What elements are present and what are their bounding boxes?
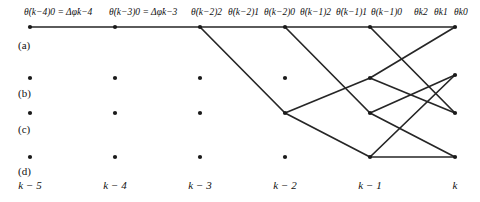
row-label-c: (c): [18, 124, 30, 135]
trellis-edge: [285, 113, 370, 157]
time-axis-tick-label: k: [430, 180, 480, 191]
trellis-node: [368, 111, 372, 115]
trellis-edge: [285, 78, 370, 113]
trellis-node: [283, 76, 287, 80]
trellis-node: [28, 76, 32, 80]
trellis-node: [198, 155, 202, 159]
state-metric-label: θk2: [414, 8, 428, 18]
time-axis-tick-label: k − 3: [175, 180, 225, 191]
state-metric-label: θ̇(k−4)0 = Δφ̇k−4: [24, 8, 92, 18]
time-axis-tick-label: k − 2: [260, 180, 310, 191]
state-metric-label: θ(k−1)0: [371, 8, 402, 18]
trellis-edge: [200, 27, 285, 113]
trellis-edges: [30, 27, 455, 157]
trellis-edge: [370, 75, 455, 157]
trellis-diagram: [0, 0, 480, 202]
trellis-node: [453, 111, 457, 115]
trellis-node: [28, 155, 32, 159]
trellis-edge: [370, 113, 455, 157]
trellis-nodes: [28, 25, 457, 159]
state-metric-label: θ̇(k−1)2: [300, 8, 331, 18]
trellis-node: [198, 76, 202, 80]
time-axis-tick-label: k − 1: [345, 180, 395, 191]
trellis-node: [28, 111, 32, 115]
trellis-edge: [285, 27, 370, 113]
row-label-d: (d): [18, 166, 31, 177]
state-metric-label: θ̇(k−1)1: [336, 8, 367, 18]
trellis-node: [283, 111, 287, 115]
trellis-node: [198, 111, 202, 115]
state-metric-label: θk1: [434, 8, 448, 18]
time-axis-tick-label: k − 5: [5, 180, 55, 191]
trellis-node: [453, 73, 457, 77]
trellis-node: [368, 76, 372, 80]
row-label-b: (b): [18, 88, 31, 99]
trellis-node: [283, 155, 287, 159]
trellis-node: [453, 155, 457, 159]
row-label-a: (a): [18, 40, 30, 51]
trellis-node: [368, 155, 372, 159]
trellis-node: [113, 111, 117, 115]
state-metric-labels: θ̇(k−4)0 = Δφ̇k−4θ̇(k−3)0 = Δφ̇k−3θ̇(k−2…: [0, 0, 480, 26]
time-axis-tick-label: k − 4: [90, 180, 140, 191]
state-metric-label: θ̇(k−3)0 = Δφ̇k−3: [109, 8, 177, 18]
state-metric-label: θ̇(k−2)1: [228, 8, 259, 18]
figure-canvas: θ̇(k−4)0 = Δφ̇k−4θ̇(k−3)0 = Δφ̇k−3θ̇(k−2…: [0, 0, 480, 202]
trellis-node: [113, 76, 117, 80]
trellis-node: [113, 155, 117, 159]
state-metric-label: θk0: [454, 8, 468, 18]
state-metric-label: θ̇(k−2)2: [191, 8, 222, 18]
state-metric-label: θ(k−2)0: [264, 8, 295, 18]
